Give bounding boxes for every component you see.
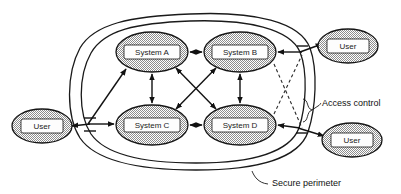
dashed-link-system-d-to-upper-point (274, 55, 302, 114)
secure-perimeter-leader-line (252, 171, 268, 184)
external-link-group-right (274, 44, 324, 136)
user-left-label: User (34, 122, 51, 131)
user-node-left[interactable]: User (12, 109, 72, 143)
link-system-d-to-access-point (278, 125, 300, 128)
user-bottom-right-label: User (344, 136, 361, 145)
access-control-label: Access control (322, 98, 381, 108)
annotation-secure-perimeter: Secure perimeter (252, 171, 341, 188)
network-diagram: System A System B System C System D User (0, 0, 401, 194)
system-node-b[interactable]: System B (204, 32, 276, 72)
user-node-top-right[interactable]: User (318, 29, 378, 63)
user-top-right-label: User (340, 42, 357, 51)
system-b-label: System B (223, 48, 257, 57)
system-node-d[interactable]: System D (204, 105, 276, 145)
link-access-point-to-user-bottom-right (298, 128, 324, 136)
diagram-canvas: System A System B System C System D User (0, 0, 401, 194)
secure-perimeter-label: Secure perimeter (272, 178, 341, 188)
system-c-label: System C (135, 121, 170, 130)
dashed-link-system-b-to-lower-point (274, 64, 302, 128)
user-node-bottom-right[interactable]: User (322, 123, 382, 157)
system-node-a[interactable]: System A (116, 32, 188, 72)
system-node-c[interactable]: System C (116, 105, 188, 145)
system-a-label: System A (135, 48, 169, 57)
system-d-label: System D (223, 121, 258, 130)
